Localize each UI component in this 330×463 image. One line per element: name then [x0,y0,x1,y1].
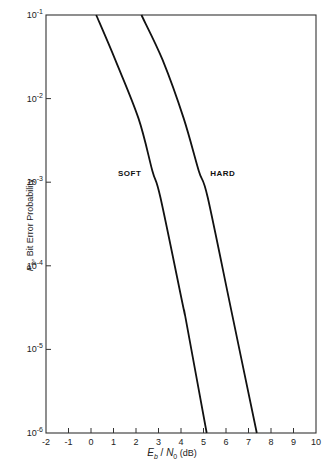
plot-border [46,15,316,433]
x-tick-label: 2 [133,437,138,447]
x-axis-title: Eb / N0 (dB) [147,447,197,460]
x-tick-label: -2 [42,437,50,447]
curve-hard [141,15,256,433]
x-axis-ticks: -2-1012345678910 [42,428,321,447]
plot-frame [46,15,316,433]
y-tick-label: 10-5 [27,342,43,354]
label-soft: SOFT [118,169,141,178]
x-tick-label: 4 [178,437,183,447]
curves [96,15,257,433]
x-tick-label: 6 [223,437,228,447]
x-tick-label: 3 [156,437,161,447]
curve-labels: SOFTHARD [118,169,235,178]
x-tick-label: 8 [268,437,273,447]
label-hard: HARD [210,169,235,178]
x-tick-label: 7 [246,437,251,447]
x-tick-label: 1 [111,437,116,447]
y-tick-label: 10-2 [27,92,43,104]
x-tick-label: 10 [311,437,321,447]
y-axis-title: Pb, Bit Error Probability [25,178,37,271]
ber-chart: -2-1012345678910 10-110-210-310-410-510-… [0,0,330,463]
x-tick-label: 5 [201,437,206,447]
x-tick-label: 9 [291,437,296,447]
x-tick-label: -1 [64,437,72,447]
curve-soft [96,15,207,433]
axis-titles: Eb / N0 (dB) Pb, Bit Error Probability [25,178,197,460]
x-tick-label: 0 [88,437,93,447]
y-tick-label: 10-1 [27,8,43,20]
y-tick-label: 10-6 [27,426,43,438]
